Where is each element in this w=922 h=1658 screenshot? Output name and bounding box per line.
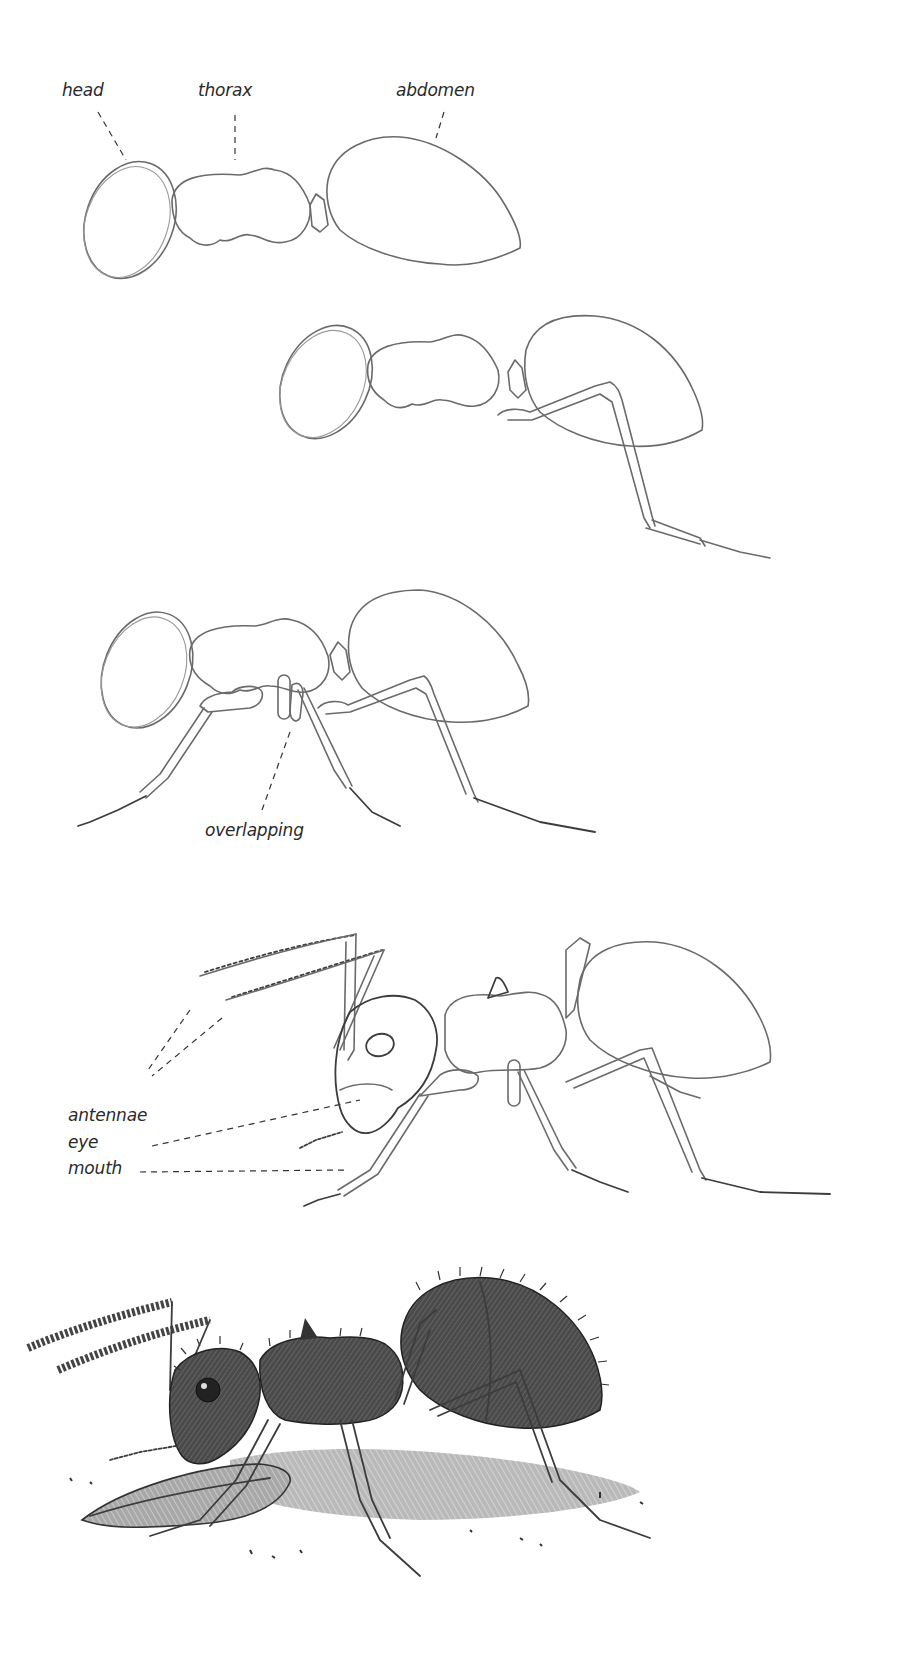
step-4-head-details: antennae eye mouth <box>0 900 922 1220</box>
ant-sketch-shapes-illustration <box>0 0 922 290</box>
step-1-basic-shapes: head thorax abdomen <box>0 0 922 290</box>
ant-sketch-first-leg-illustration <box>0 290 922 580</box>
ant-head <box>170 1349 261 1464</box>
ant-shaded-final-illustration <box>0 1220 922 1658</box>
wing-fragment <box>82 1464 290 1527</box>
ant-thorax <box>260 1337 403 1424</box>
ant-abdomen <box>401 1278 602 1429</box>
step-3-all-legs: overlapping <box>0 560 922 880</box>
ant-sketch-detailed-illustration <box>0 900 922 1220</box>
step-2-first-leg <box>0 290 922 580</box>
step-5-shaded-ant <box>0 1220 922 1658</box>
ant-sketch-legs-illustration <box>0 560 922 880</box>
ground-shadow <box>230 1449 640 1520</box>
